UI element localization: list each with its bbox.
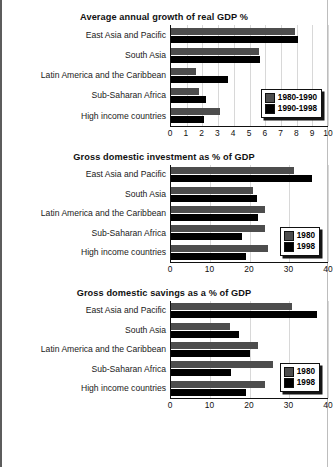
legend-item: 1980 <box>284 367 315 377</box>
bar-group <box>171 206 328 221</box>
bar <box>171 214 258 221</box>
axis-tick-label: 40 <box>323 400 332 410</box>
bar <box>171 350 250 357</box>
axis-tick-label: 30 <box>284 264 293 274</box>
bar <box>171 28 295 35</box>
bar <box>171 303 292 310</box>
bar <box>171 233 242 240</box>
legend-swatch-icon <box>265 93 275 103</box>
category-label: East Asia and Pacific <box>0 31 166 40</box>
category-label: High income countries <box>0 384 166 393</box>
gridline <box>328 301 329 398</box>
bar <box>171 175 312 182</box>
axis-tick-label: 3 <box>215 128 220 138</box>
axis-tick-label: 5 <box>247 128 252 138</box>
value-axis: 010203040 <box>170 262 328 277</box>
chart-stack: Average annual growth of real GDP %East … <box>0 0 328 413</box>
axis-tick-label: 20 <box>244 400 253 410</box>
bar <box>171 206 265 213</box>
legend-item: 1980 <box>284 231 315 241</box>
gridline <box>328 165 329 262</box>
axis-tick-label: 10 <box>205 400 214 410</box>
legend-label: 1990-1998 <box>278 105 317 113</box>
axis-tick-label: 8 <box>294 128 299 138</box>
category-label: High income countries <box>0 112 166 121</box>
bar-group <box>171 303 328 318</box>
category-axis: East Asia and PacificSouth AsiaLatin Ame… <box>0 25 170 126</box>
chart-title: Gross domestic investment as % of GDP <box>0 152 328 162</box>
bar <box>171 323 230 330</box>
bar <box>171 56 260 63</box>
legend-swatch-icon <box>284 367 294 377</box>
bar <box>171 311 317 318</box>
category-label: Latin America and the Caribbean <box>0 209 166 218</box>
bar-group <box>171 323 328 338</box>
legend-label: 1980 <box>297 368 315 376</box>
category-label: South Asia <box>0 190 166 199</box>
bar <box>171 96 206 103</box>
bar-group <box>171 187 328 202</box>
bar-group <box>171 48 328 63</box>
legend-label: 1998 <box>297 379 315 387</box>
legend: 19801998 <box>280 227 320 256</box>
bar <box>171 36 298 43</box>
bars-region: 1980-19901990-1998 <box>170 25 328 126</box>
bar <box>171 342 258 349</box>
chart-title: Gross domestic savings as a % of GDP <box>0 288 328 298</box>
category-label: Latin America and the Caribbean <box>0 345 166 354</box>
axis-tick-label: 10 <box>205 264 214 274</box>
bar <box>171 369 231 376</box>
axis-tick-label: 30 <box>284 400 293 410</box>
axis-tick-label: 20 <box>244 264 253 274</box>
category-axis: East Asia and PacificSouth AsiaLatin Ame… <box>0 301 170 398</box>
bar <box>171 108 220 115</box>
bar <box>171 76 228 83</box>
axis-tick-label: 2 <box>199 128 204 138</box>
bar <box>171 331 239 338</box>
chart-3: Gross domestic savings as a % of GDPEast… <box>0 277 328 413</box>
axis-tick-label: 0 <box>168 264 173 274</box>
plot-area: East Asia and PacificSouth AsiaLatin Ame… <box>0 165 328 262</box>
bar <box>171 389 246 396</box>
value-axis: 010203040 <box>170 398 328 413</box>
axis-tick-label: 0 <box>168 400 173 410</box>
category-label: Sub-Saharan Africa <box>0 91 166 100</box>
bar <box>171 381 265 388</box>
plot-area: East Asia and PacificSouth AsiaLatin Ame… <box>0 25 328 126</box>
bars-region: 19801998 <box>170 301 328 398</box>
plot-area: East Asia and PacificSouth AsiaLatin Ame… <box>0 301 328 398</box>
bar <box>171 187 253 194</box>
bar-group <box>171 167 328 182</box>
category-label: South Asia <box>0 326 166 335</box>
axis-tick-label: 1 <box>183 128 188 138</box>
category-label: Sub-Saharan Africa <box>0 229 166 238</box>
bar <box>171 253 246 260</box>
legend-item: 1990-1998 <box>265 104 317 114</box>
axis-tick-label: 6 <box>262 128 267 138</box>
bar <box>171 361 273 368</box>
legend-swatch-icon <box>265 104 275 114</box>
legend-swatch-icon <box>284 242 294 252</box>
legend-item: 1998 <box>284 242 315 252</box>
category-label: South Asia <box>0 51 166 60</box>
chart-1: Average annual growth of real GDP %East … <box>0 0 328 141</box>
chart-2: Gross domestic investment as % of GDPEas… <box>0 141 328 277</box>
bar <box>171 68 196 75</box>
axis-tick-label: 0 <box>168 128 173 138</box>
axis-tick-label: 4 <box>231 128 236 138</box>
gridline <box>328 25 329 126</box>
legend-label: 1998 <box>297 243 315 251</box>
category-label: East Asia and Pacific <box>0 306 166 315</box>
legend-swatch-icon <box>284 378 294 388</box>
axis-tick-label: 7 <box>278 128 283 138</box>
legend-item: 1998 <box>284 378 315 388</box>
legend-label: 1980-1990 <box>278 94 317 102</box>
legend-swatch-icon <box>284 231 294 241</box>
category-label: East Asia and Pacific <box>0 170 166 179</box>
category-label: Latin America and the Caribbean <box>0 71 166 80</box>
bar <box>171 167 294 174</box>
bar <box>171 116 204 123</box>
legend: 1980-19901990-1998 <box>261 89 322 118</box>
axis-tick-label: 9 <box>310 128 315 138</box>
bar-group <box>171 28 328 43</box>
